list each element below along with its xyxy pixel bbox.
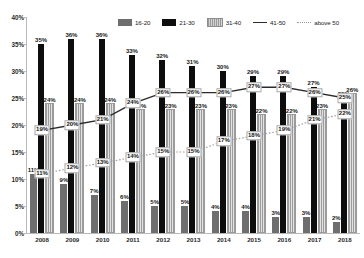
y-axis-tick-label: 30%: [2, 68, 24, 75]
y-axis-tick-mark: [23, 233, 26, 234]
y-axis-tick-label: 20%: [2, 122, 24, 129]
x-axis-tick-label-2009: 2009: [66, 236, 80, 243]
x-axis-tick-label-2008: 2008: [35, 236, 49, 243]
y-axis-tick-label: 40%: [2, 14, 24, 21]
x-axis-tick-label-2013: 2013: [187, 236, 201, 243]
line-series-41-50: [42, 87, 345, 130]
x-axis: 2008200920102011201220132014201520162017…: [27, 236, 360, 250]
line-series-layer: [27, 17, 360, 233]
y-axis-tick-label: 0%: [2, 230, 24, 237]
y-axis-tick-mark: [23, 71, 26, 72]
x-axis-tick-label-2014: 2014: [217, 236, 231, 243]
y-axis-tick-mark: [23, 44, 26, 45]
y-axis-tick-label: 25%: [2, 95, 24, 102]
y-axis-tick-label: 10%: [2, 176, 24, 183]
x-axis-tick-label-2012: 2012: [156, 236, 170, 243]
line-series-above-50: [42, 114, 345, 173]
x-axis-tick-label-2015: 2015: [247, 236, 261, 243]
x-axis-tick-label-2018: 2018: [338, 236, 352, 243]
y-axis-tick-mark: [23, 179, 26, 180]
y-axis: 0%5%10%15%20%25%30%35%40%: [2, 12, 24, 238]
x-axis-tick-label-2017: 2017: [308, 236, 322, 243]
y-axis-tick-mark: [23, 125, 26, 126]
y-axis-tick-label: 5%: [2, 203, 24, 210]
x-axis-tick-label-2010: 2010: [96, 236, 110, 243]
x-axis-line: [26, 233, 360, 234]
y-axis-tick-label: 35%: [2, 41, 24, 48]
chart-container: 16-2021-3031-4041-50above 50 0%5%10%15%2…: [0, 0, 364, 258]
x-axis-tick-label-2011: 2011: [126, 236, 139, 243]
y-axis-tick-mark: [23, 17, 26, 18]
y-axis-tick-mark: [23, 98, 26, 99]
y-axis-tick-mark: [23, 206, 26, 207]
x-axis-tick-label-2016: 2016: [277, 236, 291, 243]
y-axis-tick-mark: [23, 152, 26, 153]
y-axis-tick-label: 15%: [2, 149, 24, 156]
